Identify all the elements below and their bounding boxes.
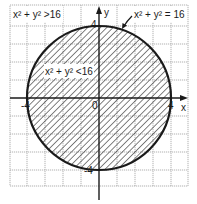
x-tick-pos4: 4	[168, 100, 174, 111]
x-tick-neg4: -4	[21, 100, 30, 111]
outside-region-label: x² + y² >16	[13, 9, 61, 20]
origin-label: 0	[92, 100, 98, 111]
y-axis-arrow-icon	[96, 6, 102, 14]
x-axis-arrow-icon	[180, 95, 188, 101]
boundary-pointer-arrowhead-icon	[122, 23, 127, 29]
y-tick-pos4: 4	[91, 19, 97, 30]
x-axis-label: x	[181, 102, 186, 113]
circle-inequality-graph: x² + y² >16 x² + y² = 16 x² + y² <16 x y…	[0, 0, 197, 204]
boundary-equation-label: x² + y² = 16	[134, 9, 185, 20]
inside-region-label: x² + y² <16	[45, 66, 93, 77]
y-tick-neg4: -4	[84, 165, 93, 176]
y-axis-label: y	[104, 7, 109, 18]
graph-svg: x² + y² >16 x² + y² = 16 x² + y² <16 x y…	[0, 0, 197, 204]
